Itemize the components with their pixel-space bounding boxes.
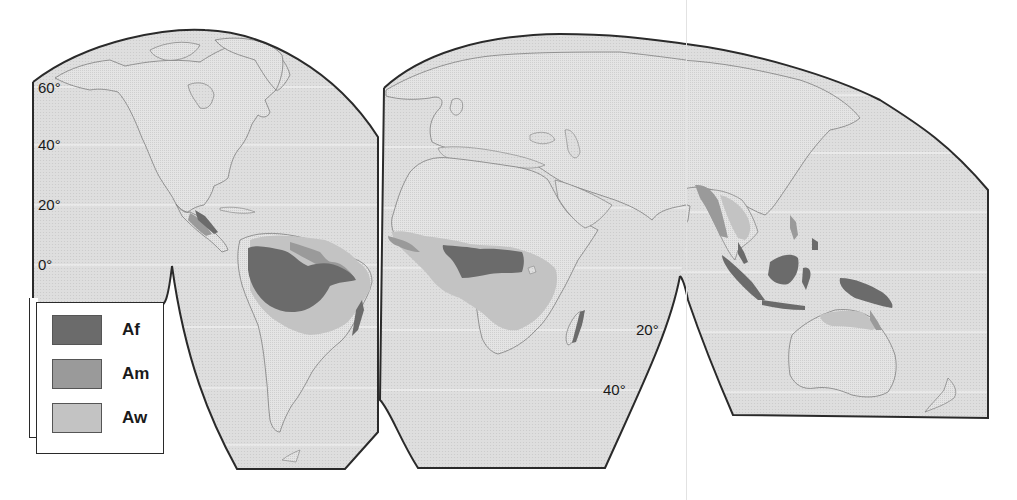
lat-label-0: 0° [38,257,52,272]
legend-label-aw: Aw [122,408,147,428]
lat-label-60: 60° [38,80,61,95]
lat-label-20: 20° [38,197,61,212]
legend-item-am: Am [52,359,149,389]
lat-label-40: 40° [38,137,61,152]
legend-item-af: Af [52,315,140,345]
legend-label-af: Af [122,320,140,340]
legend: Af Am Aw [36,302,164,454]
legend-item-aw: Aw [52,403,147,433]
swatch-af [52,315,102,345]
page-fold-line [686,0,687,500]
lat-label-20-south: 20° [636,322,659,337]
lat-label-40-south: 40° [603,382,626,397]
legend-label-am: Am [122,364,149,384]
swatch-aw [52,403,102,433]
swatch-am [52,359,102,389]
